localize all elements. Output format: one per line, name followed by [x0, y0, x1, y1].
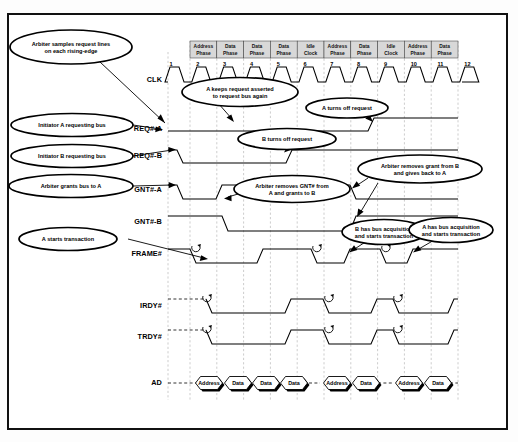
- callout-arbiter-grants-a: Arbiter grants bus to A: [9, 175, 133, 198]
- signal-label-gnt-b: GNT#-B: [134, 217, 162, 226]
- clock-number-3: 3: [223, 61, 226, 67]
- leader-arrow-arbiter-removes-gnt-a: [224, 195, 232, 201]
- leader-arbiter-samples: [100, 62, 165, 123]
- callout-arbiter-removes-gnt-a: Arbiter removes GNT# fromA and grants to…: [234, 176, 350, 203]
- callout-b-turns-off: B turns off request: [238, 129, 336, 150]
- clock-number-5: 5: [277, 61, 280, 67]
- swirl-arc-trdy-3: [394, 327, 402, 333]
- callout-text-arbiter-removes-gnt-a-line1: Arbiter removes GNT# from: [255, 183, 328, 189]
- swirl-arc-frame-3: [382, 246, 390, 252]
- turnaround-swirl-trdy-3: [394, 325, 403, 333]
- clock-number-7: 7: [330, 61, 333, 67]
- callout-ellipse-a-has-bus: [409, 218, 493, 243]
- phase-label-line1-4: Data: [278, 44, 289, 49]
- phase-label-line2-5: Clock: [304, 51, 318, 56]
- callout-ellipse-arbiter-removes-gnt-a: [234, 176, 350, 203]
- callout-text-initiator-b-req: Initiator B requesting bus: [38, 153, 106, 159]
- leader-arbiter-removes-b-2: [360, 183, 378, 213]
- signal-label-ad: AD: [151, 378, 162, 387]
- callout-text-arbiter-removes-b-line2: and gives back to A: [394, 170, 446, 176]
- phase-label-line2-3: Phase: [250, 51, 265, 56]
- clock-number-labels: 123456789101112: [170, 61, 471, 67]
- clock-number-6: 6: [304, 61, 307, 67]
- callout-initiator-b-req: Initiator B requesting bus: [11, 145, 133, 168]
- ad-cell-label-7: Address: [398, 380, 420, 386]
- phase-label-line1-2: Data: [225, 44, 236, 49]
- callout-text-arbiter-grants-a: Arbiter grants bus to A: [41, 183, 102, 189]
- clock-number-1: 1: [170, 61, 173, 67]
- callout-ellipse-arbiter-samples: [10, 30, 132, 64]
- phase-label-line2-9: Phase: [411, 51, 426, 56]
- clock-number-10: 10: [411, 61, 417, 67]
- callout-text-a-turns-off: A turns off request: [322, 105, 372, 111]
- callout-text-arbiter-samples-line2: on each rising-edge: [45, 48, 98, 54]
- callout-text-a-has-bus-line1: A has bus acquisition: [422, 224, 480, 230]
- ad-cell-label-8: Data: [432, 380, 445, 386]
- swirl-arc-frame-2: [313, 246, 321, 252]
- turnaround-swirl-frame-1: [192, 244, 201, 252]
- phase-label-line1-8: Idle: [387, 44, 396, 49]
- clock-number-9: 9: [384, 61, 387, 67]
- phase-label-line2-4: Phase: [277, 51, 292, 56]
- callout-ellipse-a-keeps-req: [182, 78, 298, 107]
- callout-text-initiator-a-req: Initiator A requesting bus: [38, 122, 105, 128]
- phase-label-line1-1: Address: [194, 44, 214, 49]
- signal-label-gnt-a: GNT#-A: [134, 185, 162, 194]
- turnaround-swirl-frame-2: [313, 244, 322, 252]
- ad-cell-label-3: Data: [260, 380, 273, 386]
- callout-initiator-a-req: Initiator A requesting bus: [11, 114, 133, 137]
- callout-text-a-starts: A starts transaction: [42, 236, 95, 242]
- phase-label-line1-3: Data: [252, 44, 263, 49]
- callout-text-a-has-bus-line2: and starts transaction: [422, 231, 481, 237]
- ad-cell-label-6: Data: [360, 380, 373, 386]
- diagram-stage: AddressPhaseDataPhaseDataPhaseDataPhaseI…: [0, 0, 518, 442]
- callout-text-arbiter-samples-line1: Arbiter samples request lines: [32, 41, 110, 47]
- ad-cell-label-1: Address: [198, 380, 220, 386]
- clock-number-8: 8: [357, 61, 360, 67]
- phase-label-line1-9: Address: [408, 44, 428, 49]
- phase-label-line1-5: Idle: [306, 44, 315, 49]
- clock-number-2: 2: [196, 61, 199, 67]
- clock-number-4: 4: [250, 61, 254, 67]
- leader-arrow-arbiter-samples: [158, 114, 166, 123]
- callout-text-b-has-bus-line2: and starts transaction: [355, 233, 414, 239]
- callout-text-b-has-bus-line1: B has bus acquisition: [355, 226, 413, 232]
- phase-label-line1-10: Data: [439, 44, 450, 49]
- callout-a-has-bus: A has bus acquisitionand starts transact…: [409, 218, 493, 243]
- callout-a-keeps-req: A keeps request assertedto request bus a…: [182, 78, 298, 107]
- callout-a-turns-off: A turns off request: [306, 98, 388, 118]
- req-a-waveform: [168, 118, 458, 131]
- ad-cell-label-5: Address: [326, 380, 348, 386]
- phase-label-line2-10: Phase: [437, 51, 452, 56]
- leader-arrow-initiator-b: [168, 147, 176, 153]
- leader-arrow-arbiter-grants-a: [169, 182, 176, 188]
- swirl-arc-irdy-3: [394, 296, 402, 302]
- ad-cell-label-4: Data: [288, 380, 301, 386]
- callout-text-arbiter-removes-b-line1: Arbiter removes grant from B: [381, 163, 459, 169]
- ad-bus-cells: AddressDataDataDataAddressDataAddressDat…: [196, 377, 454, 392]
- callout-text-b-turns-off: B turns off request: [262, 136, 312, 142]
- phase-label-line1-7: Data: [359, 44, 370, 49]
- swirl-arc-frame-1: [192, 246, 200, 252]
- timing-diagram-svg: AddressPhaseDataPhaseDataPhaseDataPhaseI…: [0, 0, 518, 442]
- signal-label-frame: FRAME#: [131, 249, 162, 258]
- swirl-arc-trdy-2: [325, 327, 333, 333]
- callout-arbiter-samples: Arbiter samples request lineson each ris…: [10, 30, 132, 64]
- turnaround-swirl-trdy-2: [325, 325, 334, 333]
- phase-label-line2-6: Phase: [330, 51, 345, 56]
- ad-cell-label-2: Data: [232, 380, 245, 386]
- phase-label-line2-8: Clock: [384, 51, 398, 56]
- phase-label-line2-7: Phase: [357, 51, 372, 56]
- signal-label-irdy: IRDY#: [140, 301, 162, 310]
- swirl-arc-irdy-2: [325, 296, 333, 302]
- callout-arbiter-removes-b: Arbiter removes grant from Band gives ba…: [358, 155, 482, 183]
- phase-label-line2-2: Phase: [223, 51, 238, 56]
- clock-number-11: 11: [438, 61, 444, 67]
- callout-text-a-keeps-req-line1: A keeps request asserted: [206, 86, 274, 92]
- turnaround-swirl-irdy-1: [203, 294, 212, 302]
- leader-arrow-arbiter-removes-b-1: [352, 181, 360, 188]
- diagram-root: AddressPhaseDataPhaseDataPhaseDataPhaseI…: [0, 0, 518, 442]
- clock-number-12: 12: [464, 61, 470, 67]
- turnaround-swirl-irdy-2: [325, 294, 334, 302]
- signal-label-trdy: TRDY#: [138, 332, 162, 341]
